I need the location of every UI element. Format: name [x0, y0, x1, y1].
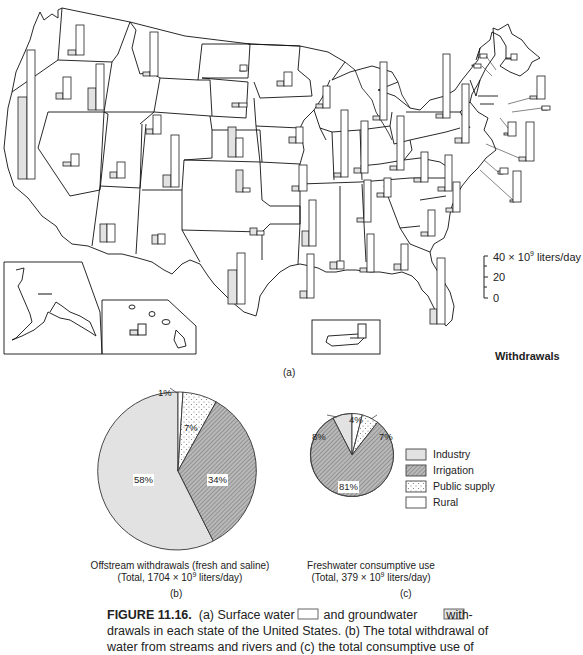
legend-swatch-irrigation	[406, 465, 426, 476]
legend-swatch-public	[406, 481, 426, 492]
hawaii-inset	[102, 300, 196, 354]
pie-b-irrigation-label: 34%	[207, 474, 228, 486]
pie-c-public-label: 7%	[379, 431, 393, 443]
us-map	[4, 8, 540, 326]
figure-number: FIGURE 11.16.	[107, 608, 192, 622]
legend-label-public-supply: Public supply	[433, 480, 495, 492]
pie-c-title: Freshwater consumptive use (Total, 379 ×…	[306, 560, 436, 583]
panel-b-label: (b)	[170, 588, 182, 599]
legend-label-irrigation: Irrigation	[433, 464, 474, 476]
pie-c-industry-label: 8%	[312, 431, 326, 443]
scale-label-40: 40 × 109 liters/day	[493, 250, 581, 263]
legend-swatches	[406, 449, 426, 508]
puerto-rico-inset	[312, 320, 380, 354]
panel-a-label: (a)	[283, 367, 295, 378]
us-outline	[4, 8, 540, 326]
scale-label-0: 0	[493, 292, 499, 304]
pie-chart-b	[98, 388, 257, 550]
map-title: Withdrawals	[495, 350, 560, 362]
alaska-inset	[4, 262, 102, 354]
pie-b-title: Offstream withdrawals (fresh and saline)…	[90, 560, 270, 583]
legend-swatch-industry	[406, 449, 426, 460]
pie-b-industry-label: 58%	[133, 474, 154, 486]
scale-bar	[484, 256, 488, 298]
pie-c-rural-label: 4%	[349, 414, 363, 426]
legend-swatch-rural	[406, 497, 426, 508]
pie-b-public-label: 7%	[184, 422, 198, 434]
legend-label-industry: Industry	[433, 448, 470, 460]
pie-b-rural-label: 1%	[158, 387, 172, 399]
figure-caption: FIGURE 11.16. (a) Surface water and grou…	[107, 607, 537, 655]
legend-label-rural: Rural	[433, 496, 458, 508]
scale-label-20: 20	[493, 271, 505, 283]
panel-c-label: (c)	[400, 588, 412, 599]
pie-c-irrigation-label: 81%	[338, 481, 359, 493]
